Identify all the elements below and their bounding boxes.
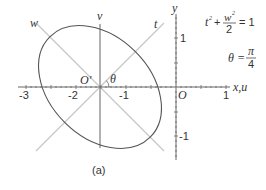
theta-arc <box>106 81 109 87</box>
w-axis-label: w <box>30 16 38 30</box>
x-axis-label: x,u <box>232 80 247 94</box>
ellipse-diagram: w v t y x,u O' θ O -3 -2 -1 1 1 -1 t 2 +… <box>0 0 266 190</box>
theta-label: θ <box>110 72 116 86</box>
x-tick-label: 1 <box>223 89 229 101</box>
origin-label: O <box>178 88 187 102</box>
svg-text:2: 2 <box>232 10 235 16</box>
x-tick-label: -3 <box>19 89 29 101</box>
svg-text:2: 2 <box>226 23 232 35</box>
angle-equation: θ = π 4 <box>228 44 256 70</box>
y-axis-label: y <box>171 1 178 15</box>
y-tick-label: -1 <box>179 130 189 142</box>
svg-text:4: 4 <box>248 58 254 70</box>
x-tick-label: -2 <box>68 89 78 101</box>
svg-text:w: w <box>224 11 232 23</box>
v-axis-label: v <box>97 9 103 23</box>
x-tick-label: -1 <box>119 89 129 101</box>
svg-text:π: π <box>248 44 255 58</box>
svg-text:+: + <box>214 16 220 28</box>
ellipse-equation: t 2 + w 2 2 = 1 <box>205 10 255 35</box>
svg-text:= 1: = 1 <box>239 16 255 28</box>
origin-prime-label: O' <box>80 73 92 87</box>
svg-text:θ =: θ = <box>228 51 245 65</box>
figure-caption: (a) <box>92 164 105 176</box>
y-tick-label: 1 <box>180 32 186 44</box>
svg-text:2: 2 <box>209 15 212 21</box>
